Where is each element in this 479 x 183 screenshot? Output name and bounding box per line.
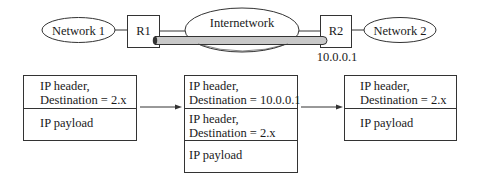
packet-encapsulated-inner-header: IP header, Destination = 2.x [185, 108, 297, 140]
router2-address: 10.0.0.1 [317, 50, 358, 64]
header-line: IP header, [360, 79, 456, 93]
packet-encapsulated-payload: IP payload [185, 140, 297, 172]
header-line: IP header, [189, 79, 297, 93]
destination-line: Destination = 2.x [360, 93, 456, 107]
packet-decapsulated-header: IP header, Destination = 2.x [345, 76, 456, 108]
network1-label: Network 1 [52, 24, 105, 38]
packet-original-header: IP header, Destination = 2.x [24, 76, 136, 108]
destination-line: Destination = 10.0.0.1 [189, 93, 297, 107]
tunnel-entry-cap [153, 37, 157, 45]
internetwork-label: Internetwork [210, 16, 275, 30]
tunnel [155, 37, 327, 45]
payload-line: IP payload [189, 148, 297, 162]
packet-encapsulated: IP header, Destination = 10.0.0.1 IP hea… [184, 75, 298, 173]
payload-line: IP payload [40, 116, 136, 130]
packet-decapsulated-payload: IP payload [345, 108, 456, 140]
arrow-2-head [336, 105, 343, 110]
network2-label: Network 2 [373, 24, 426, 38]
arrow-1-head [175, 105, 182, 110]
destination-line: Destination = 2.x [189, 126, 297, 140]
packet-decapsulated: IP header, Destination = 2.x IP payload [344, 75, 457, 141]
header-line: IP header, [40, 79, 136, 93]
payload-line: IP payload [360, 116, 456, 130]
router2-label: R2 [329, 24, 344, 38]
packet-original: IP header, Destination = 2.x IP payload [23, 75, 137, 141]
packet-encapsulated-outer-header: IP header, Destination = 10.0.0.1 [185, 76, 297, 108]
packet-original-payload: IP payload [24, 108, 136, 140]
router1-label: R1 [136, 24, 151, 38]
destination-line: Destination = 2.x [40, 93, 136, 107]
header-line: IP header, [189, 112, 297, 126]
